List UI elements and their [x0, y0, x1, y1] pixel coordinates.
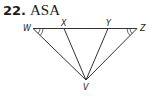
label-w: W: [23, 24, 32, 33]
angle-z-arc-outer: [127, 29, 130, 36]
label-z: Z: [139, 24, 146, 33]
label-y: Y: [106, 19, 112, 28]
segment-xv: [64, 29, 86, 81]
label-x: X: [60, 19, 67, 28]
segment-yv: [86, 29, 108, 81]
segment-wv: [33, 29, 86, 81]
triangle-diagram: W X Y Z V: [0, 0, 152, 98]
segment-zv: [86, 29, 137, 81]
label-v: V: [83, 83, 89, 92]
angle-z-arc-inner: [130, 29, 132, 34]
angle-w-arc-inner: [38, 29, 40, 34]
angle-w-arc-outer: [40, 29, 43, 36]
